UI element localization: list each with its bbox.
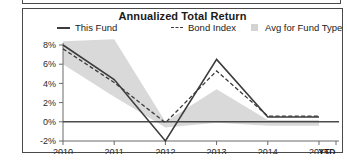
svg-text:2%: 2% bbox=[43, 98, 56, 108]
svg-text:2014: 2014 bbox=[258, 147, 278, 154]
legend-label-bond-index: Bond Index bbox=[188, 22, 236, 33]
solid-line-swatch-icon bbox=[57, 27, 70, 29]
y-axis-tick-labels: 8%6%4%2%0%-2% bbox=[40, 40, 56, 146]
svg-text:-2%: -2% bbox=[40, 136, 56, 146]
legend-label-avg-for-fund-type: Avg for Fund Type bbox=[265, 22, 342, 33]
filled-square-swatch-icon bbox=[251, 24, 258, 31]
avg-for-fund-type-band bbox=[63, 39, 319, 127]
x-axis-tick-labels: 201020112012201320142015YTD bbox=[53, 147, 336, 154]
legend-label-this-fund: This Fund bbox=[75, 22, 117, 33]
svg-text:0%: 0% bbox=[43, 117, 56, 127]
chart-screenshot: Annualized Total Return This Fund Bond I… bbox=[0, 0, 347, 165]
clipped-panel-above bbox=[22, 0, 341, 4]
svg-text:2010: 2010 bbox=[53, 147, 73, 154]
svg-text:2013: 2013 bbox=[207, 147, 227, 154]
chart-legend: This Fund Bond Index Avg for Fund Type bbox=[23, 22, 342, 37]
plot-area: 8%6%4%2%0%-2% 201020112012201320142015YT… bbox=[23, 37, 344, 154]
svg-text:2012: 2012 bbox=[155, 147, 175, 154]
svg-text:6%: 6% bbox=[43, 59, 56, 69]
dashed-line-swatch-icon bbox=[171, 27, 183, 28]
svg-text:8%: 8% bbox=[43, 40, 56, 50]
svg-text:2011: 2011 bbox=[105, 147, 124, 154]
legend-item-this-fund: This Fund bbox=[57, 22, 117, 33]
legend-item-bond-index: Bond Index bbox=[171, 22, 236, 33]
svg-text:YTD: YTD bbox=[319, 147, 336, 154]
legend-item-avg-for-fund-type: Avg for Fund Type bbox=[251, 22, 342, 33]
chart-title: Annualized Total Return bbox=[23, 10, 342, 22]
svg-text:4%: 4% bbox=[43, 79, 56, 89]
line-chart-svg: 8%6%4%2%0%-2% 201020112012201320142015YT… bbox=[23, 37, 344, 154]
annualized-total-return-panel: Annualized Total Return This Fund Bond I… bbox=[22, 8, 343, 153]
